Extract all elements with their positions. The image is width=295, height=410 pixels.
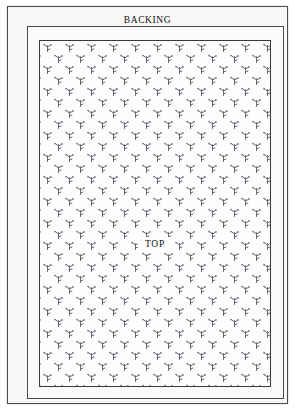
fabric-motif-pattern bbox=[40, 41, 270, 386]
layer-label-backing: BACKING bbox=[8, 15, 287, 25]
diagram-canvas: BACKING BATTING TOP bbox=[0, 0, 295, 410]
layer-backing: BACKING BATTING TOP bbox=[7, 6, 288, 404]
layer-label-top: TOP bbox=[138, 237, 172, 251]
layer-top: TOP bbox=[39, 40, 271, 387]
